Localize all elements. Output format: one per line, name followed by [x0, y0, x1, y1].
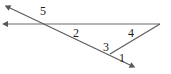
- angle-label-5: 5: [40, 5, 46, 17]
- transversal-ray: [10, 8, 130, 65]
- angle-label-4: 4: [128, 27, 134, 39]
- angle-label-1: 1: [119, 52, 125, 64]
- closing-segment: [110, 24, 160, 54]
- geometry-figure: 5 2 4 3 1: [0, 0, 171, 74]
- geometry-canvas: [0, 0, 171, 74]
- angle-label-2: 2: [73, 27, 79, 39]
- angle-label-3: 3: [103, 41, 109, 53]
